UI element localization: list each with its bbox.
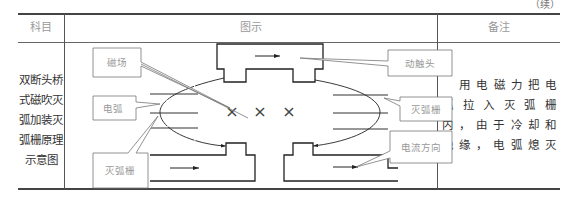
label-magnetic-field: 磁场 [107, 57, 127, 68]
arc-chute-left-plates [150, 94, 198, 128]
label-arc-chute-right: 灭弧栅 [411, 104, 441, 115]
label-box-chute-left [93, 116, 158, 188]
label-arc: 电弧 [103, 103, 123, 114]
label-current-direction: 电流方向 [401, 142, 441, 153]
static-contact-right [284, 143, 398, 181]
field-x-icon: × [282, 102, 295, 121]
field-x-icon: × [253, 102, 266, 121]
label-arc-chute-left: 灭弧栅 [105, 165, 135, 176]
label-moving-contact: 动触头 [405, 58, 435, 69]
arc-chute-diagram: × × × 磁场 电弧 灭弧栅 动触头 灭弧栅 电流方向 [0, 0, 578, 204]
magnetic-field-pointer [141, 64, 248, 118]
arc-loop [160, 78, 226, 146]
field-x-icon: × [225, 102, 238, 121]
static-contact-left [150, 143, 255, 181]
moving-contact [217, 44, 323, 82]
